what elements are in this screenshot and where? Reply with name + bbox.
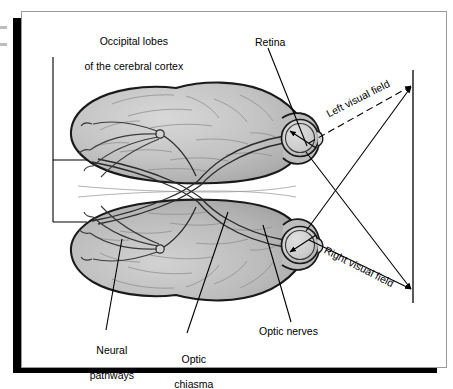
cerebral-hemisphere-upper	[71, 83, 304, 184]
label-retina: Retina	[255, 36, 285, 49]
lens-upper	[317, 131, 323, 146]
ray-lower-eye-to-top	[306, 87, 411, 231]
brain-illustration	[71, 83, 323, 301]
label-occipital-lobes: Occipital lobes of the cerebral cortex	[58, 22, 198, 85]
label-optic-chiasma-line1: Optic	[182, 353, 207, 365]
figure-root: Occipital lobes of the cerebral cortex R…	[0, 0, 453, 389]
label-optic-chiasma: Optic chiasma	[145, 340, 231, 389]
label-occipital-lobes-line1: Occipital lobes	[100, 35, 168, 47]
label-neural-pathways-line1: Neural	[96, 344, 127, 356]
label-optic-chiasma-line2: chiasma	[174, 378, 213, 389]
label-neural-pathways: Neural pathways	[60, 331, 152, 389]
label-neural-pathways-line2: pathways	[90, 369, 134, 381]
label-optic-nerves: Optic nerves	[259, 325, 318, 338]
cerebral-hemisphere-lower	[71, 200, 304, 301]
label-occipital-lobes-line2: of the cerebral cortex	[85, 60, 184, 72]
